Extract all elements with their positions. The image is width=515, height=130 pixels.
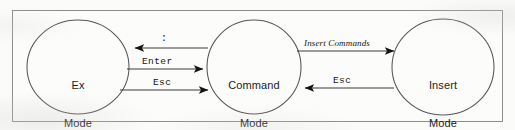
node-insert-mode-label: Insert Mode xyxy=(393,54,493,130)
node-insert-mode-line2: Mode xyxy=(393,117,493,130)
edge-label-insert-commands: Insert Commands xyxy=(304,38,370,48)
node-command-mode-line1: Command xyxy=(204,79,304,92)
node-ex-mode-line2: Mode xyxy=(28,117,128,130)
node-ex-mode-line1: Ex xyxy=(28,79,128,92)
diagram-canvas: Ex Mode Command Mode Insert Mode : Enter… xyxy=(0,0,515,130)
node-insert-mode-line1: Insert xyxy=(393,79,493,92)
node-command-mode-line2: Mode xyxy=(204,117,304,130)
node-command-mode-label: Command Mode xyxy=(204,54,304,130)
edge-label-esc-left: Esc xyxy=(153,77,171,88)
node-ex-mode-label: Ex Mode xyxy=(28,54,128,130)
edge-label-colon: : xyxy=(161,33,167,44)
edge-label-enter: Enter xyxy=(142,56,173,67)
edge-label-esc-right: Esc xyxy=(333,75,351,86)
